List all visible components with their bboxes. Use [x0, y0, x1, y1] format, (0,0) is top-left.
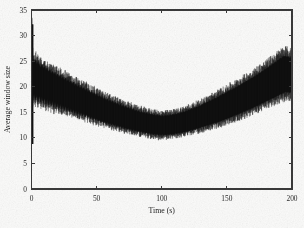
figure-container: 05101520253035050100150200Time (s)Averag…: [0, 0, 304, 228]
series-layer: [32, 18, 293, 168]
x-tick-label-200: 200: [286, 194, 297, 203]
x-tick-label-150: 150: [221, 194, 232, 203]
x-axis-title: Time (s): [149, 206, 176, 215]
y-tick-label-10: 10: [20, 133, 28, 142]
y-tick-label-35: 35: [20, 6, 28, 15]
x-tick-label-0: 0: [30, 194, 34, 203]
series-noise: [32, 18, 292, 168]
series-noise-strokes: [32, 18, 292, 168]
x-tick-label-50: 50: [93, 194, 101, 203]
y-tick-label-25: 25: [20, 57, 28, 66]
chart-plot: 05101520253035050100150200Time (s)Averag…: [0, 0, 304, 228]
y-tick-label-0: 0: [23, 185, 27, 194]
y-axis-title: Average window size: [3, 65, 12, 133]
y-tick-label-20: 20: [20, 82, 28, 91]
y-tick-label-30: 30: [20, 31, 28, 40]
y-tick-label-5: 5: [23, 159, 27, 168]
x-tick-label-100: 100: [156, 194, 167, 203]
y-tick-label-15: 15: [20, 108, 28, 117]
